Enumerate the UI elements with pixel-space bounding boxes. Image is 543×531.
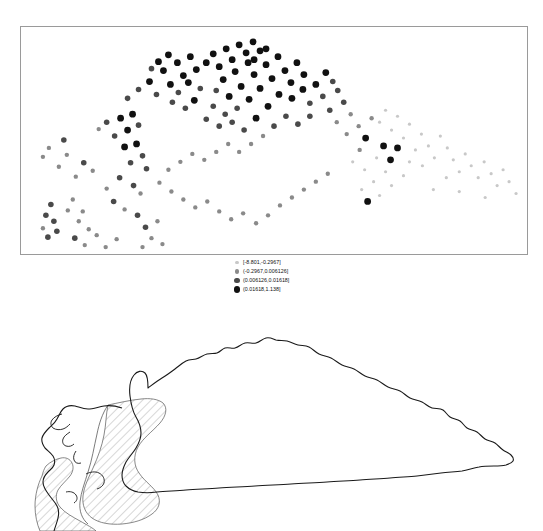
scatter-point (77, 219, 81, 223)
scatter-point (232, 68, 239, 75)
legend-item[interactable]: (0.006126,0.01618] (231, 276, 351, 285)
scatter-point (128, 160, 134, 166)
scatter-point (402, 136, 405, 139)
legend: [-8.801,-0.2967] (-0.2967,0.006126] (0.0… (231, 258, 351, 294)
scatter-point (408, 160, 411, 163)
legend-item[interactable]: [-8.801,-0.2967] (231, 258, 351, 267)
scatter-point (290, 195, 294, 199)
scatter-point (170, 100, 176, 106)
scatter-point (507, 180, 510, 183)
legend-item-label: [-8.801,-0.2967] (243, 258, 281, 267)
scatter-point (191, 97, 198, 104)
scatter-point (439, 134, 442, 137)
scatter-point (257, 47, 264, 54)
scatter-point (104, 186, 108, 190)
scatter-point (91, 169, 95, 173)
scatter-point (47, 146, 51, 150)
scatter-point (275, 53, 282, 60)
scatter-point (241, 211, 245, 215)
scatter-point (234, 106, 240, 112)
scatter-point (103, 245, 107, 249)
cuba-southwest-cove-detail (66, 492, 77, 503)
scatter-point (226, 93, 233, 100)
scatter-point (307, 113, 313, 119)
scatter-point (266, 213, 270, 217)
scatter-point (241, 127, 247, 133)
scatter-point (51, 219, 57, 225)
scatter-point (420, 132, 423, 135)
scatter-point (357, 148, 361, 152)
scatter-point (176, 90, 182, 96)
scatter-point (143, 224, 149, 230)
scatter-point (155, 219, 159, 223)
scatter-point (289, 95, 296, 102)
scatter-point (216, 63, 223, 70)
legend-item-label: (0.006126,0.01618] (243, 276, 289, 285)
scatter-point (322, 69, 329, 76)
scatter-point (117, 115, 124, 122)
scatter-point (483, 160, 486, 163)
scatter-point (302, 187, 306, 191)
scatter-point (254, 221, 258, 225)
scatter-point (421, 164, 424, 167)
cuba-northwest-bay-detail (51, 414, 70, 430)
scatter-point (335, 120, 339, 124)
scatter-point (288, 79, 295, 86)
scatter-point (48, 202, 54, 208)
scatter-point (146, 78, 153, 85)
scatter-point (138, 191, 142, 195)
scatter-point (263, 61, 270, 68)
scatter-point (203, 59, 210, 66)
scatter-point (104, 119, 110, 125)
scatter-point (477, 176, 480, 179)
scatter-point (372, 180, 375, 183)
scatter-point (490, 172, 493, 175)
scatter-point (178, 160, 182, 164)
scatter-point (351, 160, 354, 163)
legend-item-label: (-0.2967,0.006126] (243, 267, 288, 276)
scatter-point-group (41, 38, 518, 249)
scatter-point (300, 71, 307, 78)
scatter-point (283, 113, 289, 119)
scatter-point (83, 243, 87, 247)
legend-item[interactable]: (0.01618,1.138] (231, 285, 351, 294)
scatter-point (251, 71, 258, 78)
scatter-point (54, 228, 60, 234)
scatter-point (432, 188, 435, 191)
scatter-point (217, 209, 221, 213)
scatter-point (74, 175, 78, 179)
scatter-point (390, 184, 393, 187)
scatter-point (165, 51, 172, 58)
scatter-point (307, 101, 313, 107)
scatter-point (112, 133, 118, 139)
legend-item[interactable]: (-0.2967,0.006126] (231, 267, 351, 276)
scatter-point (261, 134, 265, 138)
scatter-point (363, 168, 366, 171)
scatter-point (160, 67, 167, 74)
scatter-point (396, 115, 399, 118)
scatter-point (427, 144, 430, 147)
scatter-point (193, 66, 200, 73)
scatter-point (394, 145, 401, 152)
scatter-point (387, 156, 394, 163)
scatter-point (384, 109, 387, 112)
scatter-point (187, 53, 194, 60)
scatter-point (220, 76, 227, 83)
scatter-point (229, 119, 235, 125)
scatter-point (213, 88, 219, 94)
scatter-point (384, 170, 387, 173)
scatter-point (356, 124, 360, 128)
scatter-point (166, 168, 170, 172)
scatter-point (327, 107, 333, 113)
scatter-point (249, 142, 253, 146)
scatter-point (484, 196, 487, 199)
legend-marker-icon (231, 269, 243, 273)
scatter-point (157, 180, 161, 184)
scatter-point (71, 197, 75, 201)
scatter-point (181, 197, 185, 201)
scatter-point (236, 41, 243, 48)
scatter-point (269, 75, 276, 82)
scatter-point (61, 137, 67, 143)
scatter-plot-panel (20, 26, 528, 255)
scatter-point (117, 175, 123, 181)
